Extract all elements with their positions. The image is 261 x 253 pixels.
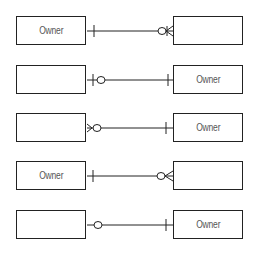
zero-circle bbox=[94, 222, 102, 229]
entity-box-right-5: Owner bbox=[173, 210, 243, 239]
entity-label: Owner bbox=[196, 122, 220, 133]
relationship-row-2 bbox=[87, 74, 173, 86]
crowfoot bbox=[165, 171, 173, 176]
relationship-row-3 bbox=[87, 122, 173, 134]
entity-label: Owner bbox=[39, 170, 63, 181]
entity-box-right-3: Owner bbox=[173, 113, 243, 142]
entity-box-left-2 bbox=[16, 65, 86, 94]
entity-box-right-4 bbox=[173, 161, 243, 190]
relationship-row-5 bbox=[87, 219, 173, 231]
zero-circle bbox=[93, 125, 101, 132]
relationship-row-4 bbox=[87, 170, 173, 182]
entity-label: Owner bbox=[196, 74, 220, 85]
entity-label: Owner bbox=[196, 219, 220, 230]
zero-circle bbox=[157, 173, 165, 180]
entity-box-left-3 bbox=[16, 113, 86, 142]
zero-circle bbox=[97, 77, 105, 84]
zero-circle bbox=[158, 28, 166, 35]
entity-label: Owner bbox=[39, 25, 63, 36]
entity-box-left-5 bbox=[16, 210, 86, 239]
entity-box-left-4: Owner bbox=[16, 161, 86, 190]
relationship-row-1 bbox=[87, 25, 173, 37]
entity-box-left-1: Owner bbox=[16, 16, 86, 45]
entity-box-right-1 bbox=[173, 16, 243, 45]
crowfoot bbox=[87, 124, 92, 128]
entity-box-right-2: Owner bbox=[173, 65, 243, 94]
